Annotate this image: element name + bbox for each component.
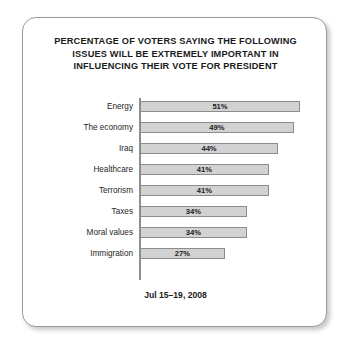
- bar-track: 34%: [140, 227, 247, 238]
- bar-value-label: 49%: [141, 123, 293, 134]
- bar-value-label: 34%: [141, 207, 246, 218]
- bar-row: Healthcare41%: [23, 161, 326, 182]
- bar-track: 41%: [140, 185, 269, 196]
- bar-rect: 27%: [140, 248, 225, 259]
- chart-title-line-3: INFLUENCING THEIR VOTE FOR PRESIDENT: [35, 60, 316, 73]
- bar-value-label: 41%: [141, 165, 268, 176]
- chart-title-line-1: PERCENTAGE OF VOTERS SAYING THE FOLLOWIN…: [35, 35, 316, 48]
- bar-category-label: Immigration: [23, 249, 133, 258]
- bar-row: Terrorism41%: [23, 182, 326, 203]
- bar-row: Immigration27%: [23, 245, 326, 266]
- bar-category-label: The economy: [23, 123, 133, 132]
- bar-row: The economy49%: [23, 119, 326, 140]
- bar-value-label: 27%: [141, 249, 224, 260]
- chart-title: PERCENTAGE OF VOTERS SAYING THE FOLLOWIN…: [35, 35, 316, 73]
- bar-row: Energy51%: [23, 98, 326, 119]
- bar-row: Moral values34%: [23, 224, 326, 245]
- bar-value-label: 44%: [141, 144, 277, 155]
- chart-footer-date: Jul 15–19, 2008: [35, 290, 316, 300]
- bar-value-label: 34%: [141, 228, 246, 239]
- bar-row: Iraq44%: [23, 140, 326, 161]
- bar-track: 44%: [140, 143, 278, 154]
- bar-chart-plot-area: Energy51%The economy49%Iraq44%Healthcare…: [23, 98, 326, 288]
- chart-title-line-2: ISSUES WILL BE EXTREMELY IMPORTANT IN: [35, 48, 316, 61]
- bar-track: 49%: [140, 122, 294, 133]
- bar-rect: 34%: [140, 206, 247, 217]
- bar-rect: 44%: [140, 143, 278, 154]
- bar-rect: 51%: [140, 101, 300, 112]
- bar-rect: 49%: [140, 122, 294, 133]
- bar-rect: 41%: [140, 164, 269, 175]
- chart-card: PERCENTAGE OF VOTERS SAYING THE FOLLOWIN…: [22, 17, 327, 327]
- bar-row: Taxes34%: [23, 203, 326, 224]
- bar-track: 34%: [140, 206, 247, 217]
- bar-value-label: 41%: [141, 186, 268, 197]
- bar-category-label: Energy: [23, 102, 133, 111]
- bar-category-label: Iraq: [23, 144, 133, 153]
- bar-category-label: Moral values: [23, 228, 133, 237]
- bar-track: 27%: [140, 248, 225, 259]
- bar-track: 41%: [140, 164, 269, 175]
- bar-category-label: Healthcare: [23, 165, 133, 174]
- bar-track: 51%: [140, 101, 300, 112]
- bar-rect: 41%: [140, 185, 269, 196]
- bar-category-label: Terrorism: [23, 186, 133, 195]
- bar-value-label: 51%: [141, 102, 299, 113]
- bar-rect: 34%: [140, 227, 247, 238]
- bar-category-label: Taxes: [23, 207, 133, 216]
